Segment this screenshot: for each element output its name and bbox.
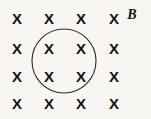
field-marker-x: X xyxy=(76,40,86,57)
field-marker-x: X xyxy=(12,95,22,112)
magnetic-field-label: B xyxy=(126,7,136,22)
field-marker-x: X xyxy=(12,68,22,85)
field-marker-x: X xyxy=(44,10,54,27)
field-marker-x: X xyxy=(109,95,119,112)
field-marker-x: X xyxy=(76,10,86,27)
field-marker-x: X xyxy=(109,40,119,57)
field-marker-x: X xyxy=(76,95,86,112)
field-marker-x: X xyxy=(109,10,119,27)
field-marker-x: X xyxy=(44,68,54,85)
field-marker-x: X xyxy=(109,68,119,85)
circular-loop-outline xyxy=(32,29,96,93)
field-marker-x: X xyxy=(44,40,54,57)
field-marker-x: X xyxy=(12,10,22,27)
magnetic-field-diagram: XXXXXXXXXXXXXXXXB xyxy=(0,0,151,119)
field-marker-x: X xyxy=(76,68,86,85)
field-marker-x: X xyxy=(44,95,54,112)
field-diagram-canvas: XXXXXXXXXXXXXXXXB xyxy=(0,0,151,119)
field-marker-x: X xyxy=(12,40,22,57)
